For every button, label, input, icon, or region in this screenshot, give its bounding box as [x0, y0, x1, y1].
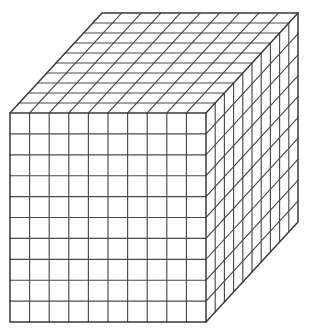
figure-canvas: Thousand Cube A ten-by-ten-by-ten base t…	[0, 0, 309, 335]
thousand-cube-figure: Thousand Cube A ten-by-ten-by-ten base t…	[0, 0, 309, 335]
